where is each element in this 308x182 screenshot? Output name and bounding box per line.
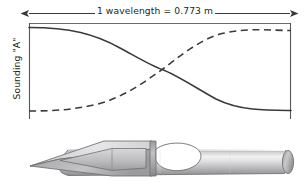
solid-wave-curve [29,28,291,111]
probe-bore-opening [156,143,201,171]
y-axis-label: Sounding "A" [11,21,22,117]
probe-collar [150,141,156,176]
dimension-label: 1 wavelength = 0.773 m [95,5,215,16]
dashed-wave-curve [29,30,291,111]
sounding-probe [30,141,294,176]
wave-curves [29,28,291,112]
figure-canvas [0,0,308,182]
standing-wave-figure: 1 wavelength = 0.773 m Sounding "A" [0,0,308,182]
probe-end-cap [282,150,293,173]
